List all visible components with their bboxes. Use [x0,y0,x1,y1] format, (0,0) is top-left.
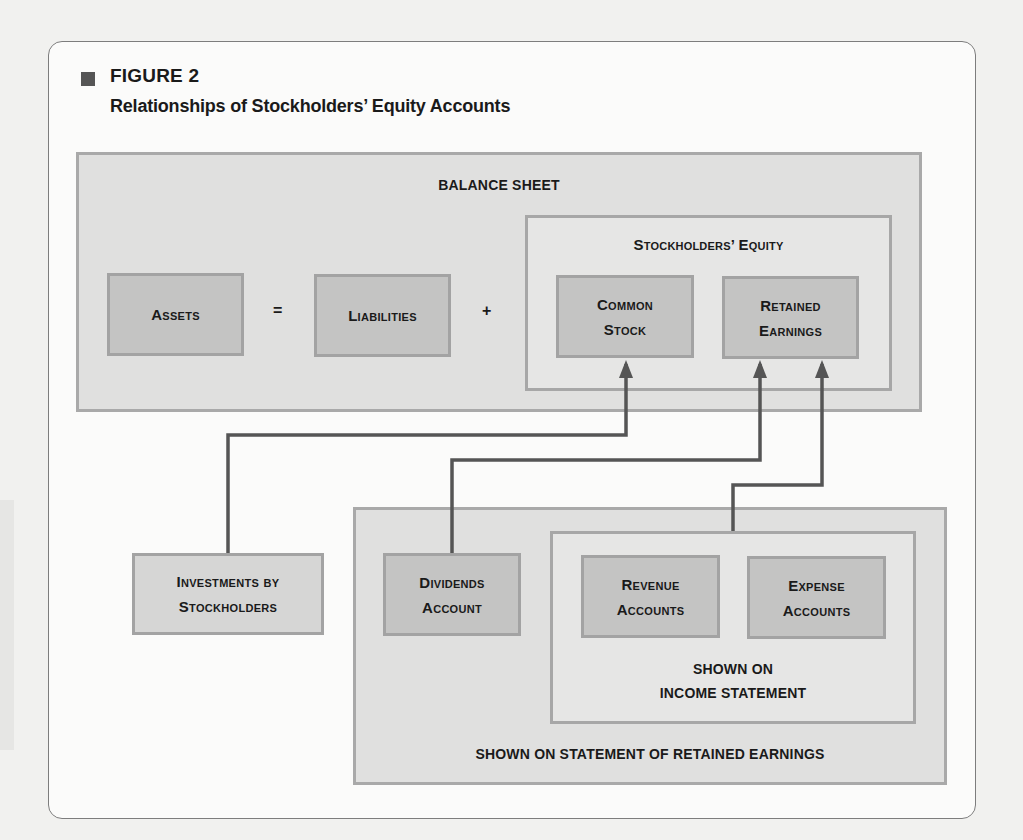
dividends-label-1: Dividends [419,570,485,595]
dividends-label-2: Account [422,595,482,620]
expense-accounts-box: Expense Accounts [747,556,886,639]
retained-earnings-label-2: Earnings [759,318,822,343]
expense-label-1: Expense [788,573,845,598]
expense-label-2: Accounts [783,598,851,623]
common-stock-label-2: Stock [604,317,646,342]
balance-sheet-title: BALANCE SHEET [76,177,922,193]
income-statement-title-1: SHOWN ON [550,657,916,681]
plus-sign: + [482,302,491,320]
dividends-account-box: Dividends Account [383,553,521,636]
equals-sign: = [273,302,282,320]
figure-title: Relationships of Stockholders’ Equity Ac… [110,96,510,117]
common-stock-box: Common Stock [556,275,694,358]
income-statement-title-2: INCOME STATEMENT [550,681,916,705]
revenue-accounts-box: Revenue Accounts [581,555,720,638]
revenue-label-2: Accounts [617,597,685,622]
retained-earnings-box: Retained Earnings [722,276,859,359]
investments-label-2: Stockholders [179,594,277,619]
liabilities-label: Liabilities [348,303,417,328]
retained-earnings-label-1: Retained [760,293,821,318]
revenue-label-1: Revenue [621,572,679,597]
income-statement-title: SHOWN ON INCOME STATEMENT [550,657,916,705]
figure-label: FIGURE 2 [110,65,199,87]
assets-label: Assets [151,302,200,327]
common-stock-label-1: Common [597,292,653,317]
investments-label-1: Investments by [177,569,280,594]
figure-bullet-icon [81,72,95,86]
retained-earnings-statement-title: SHOWN ON STATEMENT OF RETAINED EARNINGS [353,746,947,762]
page-edge-strip [0,500,14,750]
assets-box: Assets [107,273,244,356]
liabilities-box: Liabilities [314,274,451,357]
investments-by-stockholders-box: Investments by Stockholders [132,553,324,635]
stockholders-equity-title: Stockholders’ Equity [525,236,892,253]
